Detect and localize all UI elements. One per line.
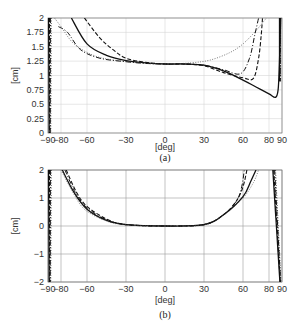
y-tick-label: 1 — [39, 71, 44, 81]
y-tick-label: 1 — [39, 193, 44, 203]
y-tick-label: −1 — [34, 249, 44, 259]
x-tick-label: −30 — [118, 284, 133, 294]
y-tick-label: 0 — [39, 221, 44, 231]
x-tick-label: −60 — [79, 135, 94, 145]
x-axis-label: [deg] — [155, 295, 175, 305]
y-axis-label: [cm] — [10, 67, 20, 84]
y-tick-label: 1.25 — [26, 56, 44, 66]
y-tick-label: 1.5 — [31, 42, 44, 52]
y-axis-label: [cm] — [10, 218, 20, 235]
y-tick-label: −2 — [34, 277, 44, 287]
subplot-caption: (b) — [159, 309, 171, 321]
y-tick-label: 2 — [39, 13, 44, 23]
x-tick-label: 90 — [277, 135, 287, 145]
y-tick-label: 0.25 — [26, 114, 44, 124]
x-tick-label: 80 — [264, 135, 274, 145]
x-tick-label: 60 — [238, 135, 248, 145]
x-tick-label: −80 — [53, 135, 68, 145]
x-tick-label: 60 — [238, 284, 248, 294]
x-tick-label: 80 — [264, 284, 274, 294]
series-dotted — [55, 18, 267, 64]
x-axis-label: [deg] — [155, 142, 175, 152]
plot-a: −90−80−60−3003060809000.250.50.7511.251.… — [10, 13, 287, 164]
y-tick-label: 2 — [39, 165, 44, 175]
x-tick-label: 30 — [199, 284, 209, 294]
x-tick-label: −60 — [79, 284, 94, 294]
chart-figure: −90−80−60−3003060809000.250.50.7511.251.… — [0, 0, 299, 328]
plot-b: −90−80−60−30030608090−2−1012[deg][cm](b) — [10, 165, 287, 321]
x-tick-label: 90 — [277, 284, 287, 294]
x-tick-label: −30 — [118, 135, 133, 145]
y-tick-label: 0 — [39, 128, 44, 138]
subplot-caption: (a) — [159, 152, 170, 164]
x-tick-label: 0 — [162, 284, 167, 294]
y-tick-label: 0.75 — [26, 85, 44, 95]
grid-lines — [48, 18, 282, 133]
x-tick-label: −80 — [53, 284, 68, 294]
y-tick-label: 1.75 — [26, 27, 44, 37]
y-tick-label: 0.5 — [31, 99, 44, 109]
x-tick-label: 30 — [199, 135, 209, 145]
